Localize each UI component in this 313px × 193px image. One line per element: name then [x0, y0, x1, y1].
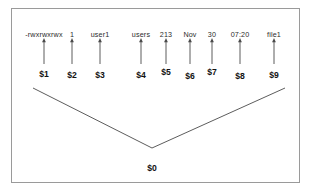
variable-label-7: $7 [207, 68, 217, 77]
ls-field-text-3: user1 [91, 31, 110, 38]
ls-field-text-4: users [132, 31, 150, 38]
ls-field-text-1: -rwxrwxrwx [25, 31, 62, 38]
ls-field-text-7: 30 [208, 31, 216, 38]
variable-label-1: $1 [39, 70, 49, 79]
variable-label-6: $6 [185, 72, 195, 81]
awk-fields-diagram: -rwxrwxrwx1user1users213Nov3007:20file1 … [0, 0, 313, 193]
ls-field-text-6: Nov [183, 31, 196, 38]
variable-label-3: $3 [95, 71, 105, 80]
variable-label-4: $4 [136, 71, 146, 80]
variable-label-9: $9 [269, 71, 279, 80]
ls-field-text-5: 213 [160, 31, 172, 38]
variable-label-8: $8 [235, 72, 245, 81]
ls-field-text-8: 07:20 [231, 31, 250, 38]
ls-field-text-9: file1 [267, 31, 281, 38]
variable-label-2: $2 [67, 71, 77, 80]
variable-label-zero: $0 [147, 164, 157, 173]
variable-label-5: $5 [161, 68, 171, 77]
ls-field-text-2: 1 [70, 31, 74, 38]
